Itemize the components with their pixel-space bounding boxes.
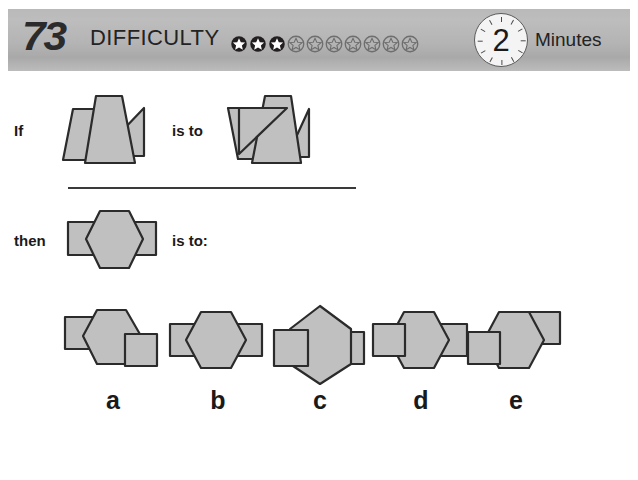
option-a-label: a bbox=[63, 386, 163, 415]
star-empty-icon bbox=[382, 35, 400, 53]
left-square bbox=[468, 332, 500, 364]
is-to-figure bbox=[225, 88, 325, 170]
if-label: If bbox=[14, 122, 23, 139]
star-empty-icon bbox=[363, 35, 381, 53]
option-d-figure bbox=[371, 302, 471, 382]
option-a-figure bbox=[63, 302, 163, 382]
is-to-label: is to bbox=[172, 122, 203, 139]
star-filled-icon bbox=[230, 35, 248, 53]
center-trapezoid bbox=[85, 96, 135, 163]
star-empty-icon bbox=[325, 35, 343, 53]
if-figure bbox=[60, 88, 160, 170]
option-c-figure bbox=[270, 302, 370, 390]
option-e-figure bbox=[466, 302, 566, 382]
star-empty-icon bbox=[306, 35, 324, 53]
divider bbox=[68, 187, 356, 189]
page-title: 73 bbox=[22, 16, 65, 56]
option-d-label: d bbox=[371, 386, 471, 415]
star-empty-icon bbox=[287, 35, 305, 53]
option-a[interactable]: a bbox=[63, 302, 163, 386]
center-hexagon bbox=[86, 211, 143, 268]
timer: 2 Minutes bbox=[474, 13, 602, 67]
header-bar: 73 DIFFICULTY bbox=[8, 9, 630, 71]
difficulty-rating bbox=[230, 35, 419, 53]
center-hexagon bbox=[186, 312, 246, 368]
star-empty-icon bbox=[344, 35, 362, 53]
star-empty-icon bbox=[401, 35, 419, 53]
difficulty-label: DIFFICULTY bbox=[90, 26, 219, 50]
clock-icon: 2 bbox=[474, 13, 528, 67]
option-c[interactable]: c bbox=[270, 302, 370, 394]
left-square bbox=[274, 330, 308, 366]
option-b[interactable]: b bbox=[168, 302, 268, 386]
option-b-label: b bbox=[168, 386, 268, 415]
option-e-label: e bbox=[466, 386, 566, 415]
timer-value: 2 bbox=[475, 25, 527, 56]
option-b-figure bbox=[168, 302, 268, 382]
timer-unit-label: Minutes bbox=[535, 29, 602, 51]
option-e[interactable]: e bbox=[466, 302, 566, 386]
right-square bbox=[125, 334, 157, 366]
is-to-colon-label: is to: bbox=[172, 232, 208, 249]
left-square bbox=[373, 324, 405, 356]
option-c-label: c bbox=[270, 386, 370, 415]
then-label: then bbox=[14, 232, 46, 249]
option-d[interactable]: d bbox=[371, 302, 471, 386]
then-figure bbox=[65, 208, 165, 274]
star-filled-icon bbox=[268, 35, 286, 53]
star-filled-icon bbox=[249, 35, 267, 53]
